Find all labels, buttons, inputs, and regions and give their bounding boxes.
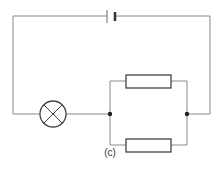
lamp-icon	[40, 101, 66, 127]
wire-left	[13, 16, 40, 114]
wire-right	[187, 16, 210, 114]
resistor-top-icon	[126, 75, 171, 88]
resistor-bottom-icon	[126, 139, 171, 152]
junction-left-icon	[108, 112, 112, 116]
cell-icon	[107, 10, 115, 23]
junction-right-icon	[185, 112, 189, 116]
diagram-caption: (c)	[103, 147, 117, 158]
